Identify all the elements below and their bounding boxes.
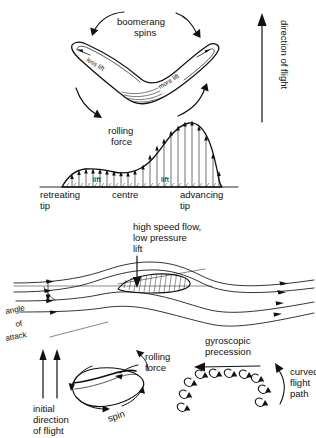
- rolling-force-chart-label-line2: force: [111, 136, 132, 147]
- precession-spiral-trail: [177, 369, 271, 411]
- high-speed-flow-label-line1: high speed flow,: [133, 221, 201, 232]
- centre-label: centre: [112, 189, 138, 200]
- lift-distribution-panel: rolling force lift lift retreating tip c…: [40, 121, 238, 211]
- lift-arrow-airfoil: [133, 256, 141, 288]
- direction-of-flight-label: direction of flight: [279, 20, 290, 90]
- gyroscopic-precession-label-line2: precession: [205, 346, 251, 357]
- more-lift-label: more lift: [157, 72, 180, 90]
- rotation-arrow-bottom-right: [178, 83, 209, 116]
- rolling-force-bottom-label-line1: rolling: [145, 351, 170, 362]
- retreating-tip-label-line2: tip: [40, 200, 50, 211]
- less-lift-label: less lift: [85, 56, 106, 72]
- angle-of-attack-leader-line: [50, 322, 108, 337]
- diagram-artwork: less lift more lift boomerang spins: [0, 0, 316, 438]
- rotation-arrow-top-right: [176, 13, 201, 38]
- angle-of-attack-label-line1: angle: [5, 303, 26, 316]
- rotation-arrow-bottom-left: [76, 88, 102, 118]
- rolling-force-bottom-label-line2: force: [145, 362, 166, 373]
- initial-direction-label-line2: direction: [33, 414, 69, 425]
- lift-arrows-advancing: [141, 121, 221, 186]
- angle-of-attack-label-line3: attack: [5, 330, 29, 343]
- precession-panel: initial direction of flight s: [33, 335, 316, 436]
- curved-flight-path-label-line1: curved: [290, 366, 316, 377]
- initial-direction-label-line3: of flight: [33, 425, 64, 436]
- boomerang-spins-label-line2: spins: [134, 27, 156, 38]
- curved-flight-path-arrow: [275, 363, 284, 404]
- retreating-tip-label-line1: retreating: [40, 189, 80, 200]
- initial-direction-label-line1: initial: [33, 403, 55, 414]
- high-speed-flow-label-line2: low pressure: [133, 232, 187, 243]
- high-speed-flow-label-line3: lift: [133, 243, 143, 254]
- boomerang-shape-top: [72, 42, 219, 104]
- advancing-tip-label-line1: advancing: [180, 189, 223, 200]
- curved-flight-path-label-line2: flight: [290, 377, 310, 388]
- streamline-arrowheads-right: [274, 281, 288, 317]
- airfoil-hatching: [124, 274, 186, 292]
- boomerang-spins-label-line1: boomerang: [117, 16, 165, 27]
- gyroscopic-precession-label-line1: gyroscopic: [205, 335, 251, 346]
- airfoil-section: [118, 274, 190, 293]
- boomerang-spin-panel: less lift more lift boomerang spins: [72, 12, 290, 122]
- precession-direction-arrow: [194, 363, 260, 372]
- lift-label-right: lift: [161, 175, 170, 184]
- airfoil-flow-panel: high speed flow, low pressure lift: [5, 221, 314, 343]
- curved-flight-path-label-line3: path: [290, 388, 309, 399]
- direction-of-flight-arrow: [257, 13, 266, 122]
- advancing-tip-label-line2: tip: [180, 200, 190, 211]
- angle-of-attack-label-line2: of: [15, 319, 24, 329]
- lift-label-left: lift: [93, 175, 102, 184]
- spin-label: spin: [106, 408, 126, 424]
- rolling-force-arrow-bottom: [115, 350, 148, 379]
- rolling-force-chart-label-line1: rolling: [108, 125, 133, 136]
- streamlines: [14, 262, 314, 326]
- diagram-canvas: less lift more lift boomerang spins: [0, 0, 316, 438]
- boomerang-shape-bottom: [73, 368, 144, 407]
- initial-direction-arrows: [39, 349, 60, 398]
